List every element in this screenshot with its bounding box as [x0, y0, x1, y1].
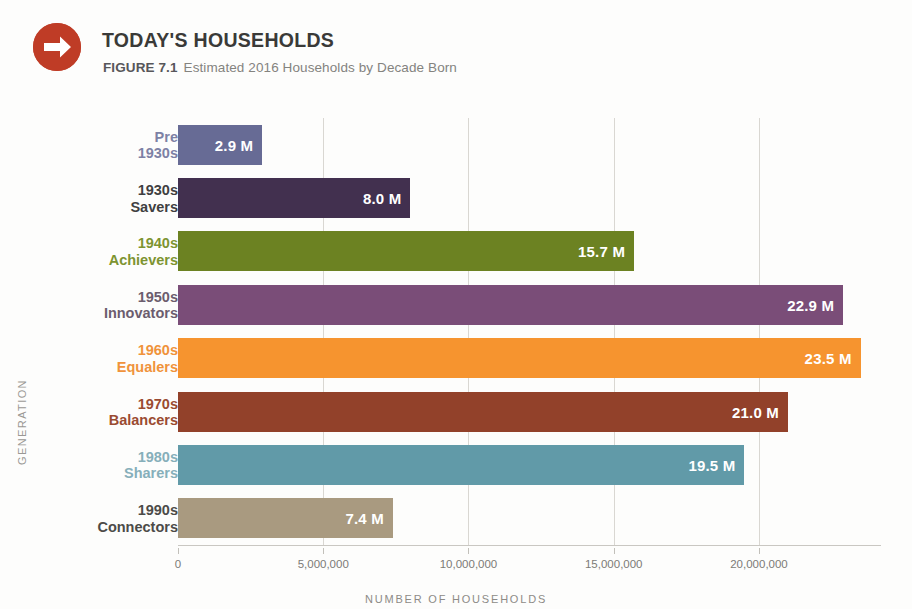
- figure-page: TODAY'S HOUSEHOLDS FIGURE 7.1Estimated 2…: [0, 0, 912, 609]
- bar-row: 1940sAchievers15.7 M: [0, 225, 912, 278]
- bar[interactable]: 8.0 M: [178, 178, 410, 218]
- arrow-right-circle-icon: [33, 23, 81, 71]
- category-label-line1: 1970s: [138, 395, 178, 411]
- x-tick-mark: [759, 548, 760, 554]
- bar-value-label: 2.9 M: [215, 136, 254, 153]
- bar-value-label: 21.0 M: [732, 403, 779, 420]
- x-tick-label: 0: [175, 558, 181, 570]
- category-label: 1980sSharers: [18, 448, 178, 481]
- category-label: 1930sSavers: [18, 182, 178, 215]
- bar-row: 1960sEqualers23.5 M: [0, 332, 912, 385]
- bar-value-label: 19.5 M: [688, 456, 735, 473]
- figure-caption: Estimated 2016 Households by Decade Born: [184, 60, 457, 75]
- category-label-line1: 1930s: [138, 182, 178, 198]
- category-label: 1950sInnovators: [18, 288, 178, 321]
- bar-value-label: 23.5 M: [805, 350, 852, 367]
- figure-subline: FIGURE 7.1Estimated 2016 Households by D…: [103, 58, 457, 76]
- x-tick-label: 10,000,000: [440, 558, 498, 570]
- x-axis-title: NUMBER OF HOUSEHOLDS: [0, 593, 912, 605]
- bar[interactable]: 19.5 M: [178, 445, 744, 485]
- x-tick-label: 5,000,000: [298, 558, 349, 570]
- bar[interactable]: 7.4 M: [178, 498, 393, 538]
- category-label-line2: Balancers: [18, 412, 178, 429]
- bar-row: 1990sConnectors7.4 M: [0, 492, 912, 545]
- category-label-line2: Savers: [18, 198, 178, 215]
- category-label-line1: 1960s: [138, 342, 178, 358]
- x-tick-mark: [178, 548, 179, 554]
- category-label: 1940sAchievers: [18, 235, 178, 268]
- figure-number: FIGURE 7.1: [103, 60, 178, 75]
- bar-chart: GENERATION Pre1930s2.9 M1930sSavers8.0 M…: [0, 96, 912, 609]
- bar-row: 1970sBalancers21.0 M: [0, 385, 912, 438]
- page-title: TODAY'S HOUSEHOLDS: [102, 29, 334, 52]
- figure-header: TODAY'S HOUSEHOLDS FIGURE 7.1Estimated 2…: [0, 0, 912, 96]
- bar[interactable]: 21.0 M: [178, 392, 788, 432]
- category-label: 1990sConnectors: [18, 502, 178, 535]
- category-label: 1970sBalancers: [18, 395, 178, 428]
- x-tick-mark: [323, 548, 324, 554]
- bar-value-label: 22.9 M: [787, 296, 834, 313]
- bar[interactable]: 2.9 M: [178, 125, 262, 165]
- category-label-line2: Equalers: [18, 358, 178, 375]
- bar-value-label: 15.7 M: [578, 243, 625, 260]
- category-label-line1: 1980s: [138, 448, 178, 464]
- x-tick-mark: [614, 548, 615, 554]
- bar-value-label: 7.4 M: [345, 510, 384, 527]
- bar[interactable]: 22.9 M: [178, 285, 843, 325]
- bar-row: 1950sInnovators22.9 M: [0, 278, 912, 331]
- bar[interactable]: 15.7 M: [178, 231, 634, 271]
- bar-row: 1980sSharers19.5 M: [0, 438, 912, 491]
- category-label-line2: Connectors: [18, 518, 178, 535]
- category-label-line1: 1990s: [138, 502, 178, 518]
- category-label-line1: 1940s: [138, 235, 178, 251]
- category-label-line2: Innovators: [18, 305, 178, 322]
- category-label: Pre1930s: [18, 128, 178, 161]
- bar-row: Pre1930s2.9 M: [0, 118, 912, 171]
- category-label-line2: 1930s: [18, 145, 178, 162]
- category-label-line2: Achievers: [18, 251, 178, 268]
- category-label-line1: Pre: [155, 128, 178, 144]
- category-label-line2: Sharers: [18, 465, 178, 482]
- category-label-line1: 1950s: [138, 288, 178, 304]
- category-label: 1960sEqualers: [18, 342, 178, 375]
- x-axis-line: [178, 545, 881, 546]
- x-tick-label: 15,000,000: [585, 558, 643, 570]
- bar-row: 1930sSavers8.0 M: [0, 171, 912, 224]
- x-tick-label: 20,000,000: [730, 558, 788, 570]
- bar-value-label: 8.0 M: [363, 190, 402, 207]
- x-tick-mark: [468, 548, 469, 554]
- bar[interactable]: 23.5 M: [178, 338, 861, 378]
